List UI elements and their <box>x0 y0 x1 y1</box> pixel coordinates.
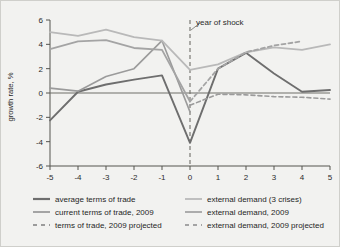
y-tick-label: -4 <box>36 138 44 147</box>
y-tick-label: 6 <box>39 16 44 25</box>
legend-label: average terms of trade <box>55 195 136 204</box>
legend-label: external demand, 2009 projected <box>207 221 324 230</box>
x-tick-label: -3 <box>102 173 110 182</box>
legend-label: external demand, 2009 <box>207 208 289 217</box>
y-tick-label: 2 <box>39 65 44 74</box>
y-axis-label: growth rate, % <box>6 72 15 121</box>
x-tick-label: -4 <box>74 173 82 182</box>
y-tick-label: -6 <box>36 162 44 171</box>
x-tick-label: -5 <box>46 173 54 182</box>
x-tick-label: 0 <box>188 173 193 182</box>
x-tick-label: 3 <box>272 173 277 182</box>
x-tick-label: 1 <box>216 173 221 182</box>
legend-label: current terms of trade, 2009 <box>55 208 154 217</box>
legend-label: external demand (3 crises) <box>207 195 302 204</box>
y-tick-label: 0 <box>39 89 44 98</box>
legend-label: terms of trade, 2009 projected <box>55 221 162 230</box>
x-tick-label: -1 <box>158 173 166 182</box>
chart-figure: growth rate, % 6420-2-4-6 -5-4-3-2-10123… <box>0 0 340 247</box>
x-tick-label: 5 <box>328 173 333 182</box>
figure-background <box>0 0 340 247</box>
x-tick-label: -2 <box>130 173 138 182</box>
line-chart: growth rate, % 6420-2-4-6 -5-4-3-2-10123… <box>0 0 340 247</box>
x-tick-label: 2 <box>244 173 249 182</box>
x-tick-label: 4 <box>300 173 305 182</box>
y-tick-label: -2 <box>36 113 44 122</box>
year-of-shock-label: year of shock <box>196 18 245 27</box>
y-tick-label: 4 <box>39 40 44 49</box>
